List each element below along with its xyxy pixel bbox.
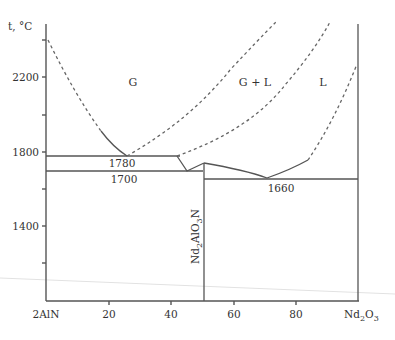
gl-l-boundary — [177, 22, 330, 156]
y-label-1400: 1400 — [12, 220, 39, 232]
phase-label-g-plus-l: G + L — [239, 76, 272, 89]
x-label-60: 60 — [227, 308, 240, 320]
peritectic-segment — [177, 156, 204, 171]
x-label-40: 40 — [164, 308, 177, 320]
x-label-nd2o3: Nd2O3 — [344, 308, 379, 323]
y-axis-title: t, °C — [8, 20, 32, 32]
phase-label-g: G — [129, 76, 138, 89]
scan-artifact-line — [0, 278, 395, 294]
x-label-80: 80 — [289, 308, 302, 320]
y-label-2200: 2200 — [12, 71, 39, 83]
annotation-1780: 1780 — [109, 157, 136, 169]
g-gl-boundary — [127, 22, 276, 156]
solid-phase-lines — [46, 24, 358, 301]
l-liquidus-right — [308, 64, 357, 160]
phase-diagram-svg: t, °C 2200 1800 1400 2AlN 20 40 60 80 Nd… — [0, 0, 395, 340]
g-boundary-solid-left — [101, 131, 127, 156]
y-label-1800: 1800 — [12, 146, 39, 158]
phase-diagram: t, °C 2200 1800 1400 2AlN 20 40 60 80 Nd… — [0, 0, 395, 340]
annotation-1660: 1660 — [268, 182, 295, 194]
x-label-20: 20 — [102, 308, 115, 320]
g-boundary-dashed-left — [48, 40, 101, 131]
compound-label-nd2alo3n: Nd2AlO3N — [189, 209, 204, 264]
x-label-2aln: 2AlN — [33, 308, 60, 320]
phase-label-l: L — [319, 76, 327, 89]
annotation-1700: 1700 — [111, 173, 138, 185]
liquidus-solid-right — [204, 160, 308, 178]
dashed-phase-lines — [48, 22, 357, 160]
